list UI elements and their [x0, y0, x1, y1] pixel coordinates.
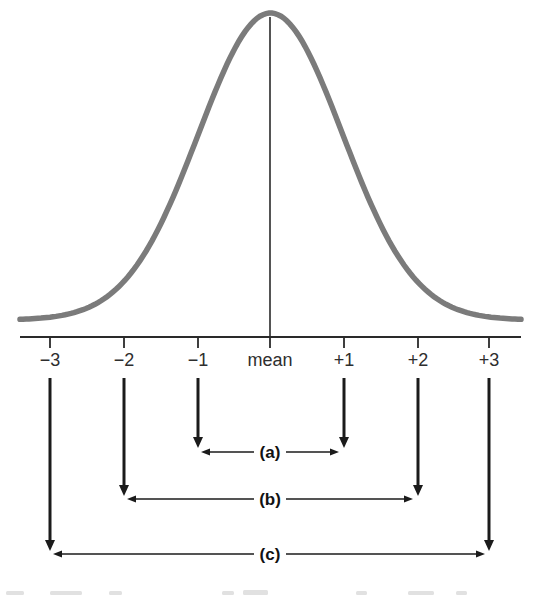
- arrowhead-right-icon: [330, 449, 339, 456]
- arrowhead-down-icon: [339, 437, 349, 448]
- tick-label-plus-2: +2: [408, 350, 429, 370]
- tick-label-minus-3: −3: [40, 350, 61, 370]
- range-a-label: (a): [260, 443, 281, 462]
- sd-drop-arrows: [45, 378, 494, 551]
- sd-arrow-minus-1: [193, 378, 203, 448]
- sd-arrow-minus-2: [119, 378, 129, 496]
- arrowhead-right-icon: [404, 496, 413, 503]
- arrowhead-left-icon: [201, 449, 210, 456]
- tick-label-plus-1: +1: [334, 350, 355, 370]
- sd-arrow-plus-1: [339, 378, 349, 448]
- range-a: (a): [201, 443, 339, 462]
- arrowhead-down-icon: [45, 540, 55, 551]
- x-axis-labels: −3 −2 −1 mean +1 +2 +3: [40, 350, 500, 370]
- normal-distribution-figure: −3 −2 −1 mean +1 +2 +3: [0, 0, 536, 596]
- x-axis-ticks: [50, 337, 489, 348]
- tick-label-minus-1: −1: [188, 350, 209, 370]
- range-b-label: (b): [259, 490, 281, 509]
- arrowhead-down-icon: [484, 540, 494, 551]
- sd-arrow-plus-3: [484, 378, 494, 551]
- sd-arrow-minus-3: [45, 378, 55, 551]
- range-c-label: (c): [260, 545, 281, 564]
- arrowhead-down-icon: [413, 485, 423, 496]
- range-b: (b): [127, 490, 413, 509]
- cropped-text-remnant: [6, 590, 467, 595]
- range-c: (c): [53, 545, 485, 564]
- tick-label-mean: mean: [247, 350, 292, 370]
- arrowhead-left-icon: [127, 496, 136, 503]
- arrowhead-down-icon: [193, 437, 203, 448]
- arrowhead-right-icon: [476, 551, 485, 558]
- arrowhead-left-icon: [53, 551, 62, 558]
- figure-canvas: −3 −2 −1 mean +1 +2 +3: [0, 0, 536, 596]
- tick-label-minus-2: −2: [114, 350, 135, 370]
- tick-label-plus-3: +3: [479, 350, 500, 370]
- arrowhead-down-icon: [119, 485, 129, 496]
- sd-arrow-plus-2: [413, 378, 423, 496]
